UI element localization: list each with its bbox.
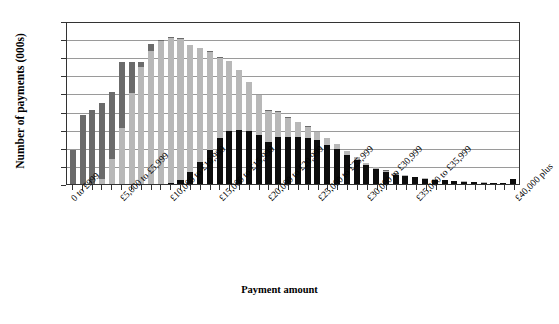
stacked-bar [158, 40, 164, 184]
bar-column [401, 23, 411, 184]
stacked-bar [129, 62, 135, 184]
bar-segment [295, 122, 301, 137]
bar-segment [109, 92, 115, 159]
stacked-bar [412, 177, 418, 184]
bar-segment [197, 162, 203, 184]
bar-column [489, 23, 499, 184]
x-tick-mark [411, 185, 421, 191]
bar-segment [490, 183, 496, 184]
x-tick-mark [431, 185, 441, 191]
bar-column [391, 23, 401, 184]
bar-segment [265, 111, 271, 142]
x-tick-mark [362, 185, 372, 191]
bar-segment [99, 179, 105, 184]
stacked-bar [177, 38, 183, 184]
bar-segment [177, 180, 183, 184]
bar-segment [295, 137, 301, 184]
bar-column [215, 23, 225, 184]
x-axis-ticks [66, 185, 520, 191]
bar-column [332, 23, 342, 184]
x-tick-mark [421, 185, 431, 191]
stacked-bar [461, 181, 467, 184]
bar-column [361, 23, 371, 184]
stacked-bar [373, 167, 379, 184]
bar-column [449, 23, 459, 184]
stacked-bar [226, 61, 232, 184]
x-tick-mark [391, 185, 401, 191]
bar-segment [275, 137, 281, 184]
bar-column [225, 23, 235, 184]
bar-column [381, 23, 391, 184]
bar-segment [80, 115, 86, 184]
stacked-bar [89, 110, 95, 184]
stacked-bar [402, 175, 408, 184]
bar-column [166, 23, 176, 184]
bar-column [371, 23, 381, 184]
bar-segment [187, 45, 193, 172]
bar-column [303, 23, 313, 184]
bar-segment [129, 62, 135, 93]
stacked-bar [510, 179, 516, 184]
bar-segment [305, 138, 311, 184]
bar-column [479, 23, 489, 184]
bar-column [156, 23, 166, 184]
stacked-bar [344, 151, 350, 184]
stacked-bar [236, 70, 242, 184]
bar-column [176, 23, 186, 184]
x-tick-mark [116, 185, 126, 191]
bar-segment [461, 182, 467, 184]
bar-segment [265, 142, 271, 184]
bar-segment [256, 135, 262, 184]
bar-column [97, 23, 107, 184]
x-tick-mark [313, 185, 323, 191]
bar-segment [402, 176, 408, 184]
x-tick-mark [352, 185, 362, 191]
x-tick-mark [264, 185, 274, 191]
bar-segment [89, 110, 95, 184]
bar-column [195, 23, 205, 184]
bar-segment [305, 127, 311, 138]
bar-segment [285, 137, 291, 184]
x-tick-mark [440, 185, 450, 191]
bar-segment [344, 155, 350, 184]
bar-column [107, 23, 117, 184]
bar-segment [354, 160, 360, 184]
stacked-bar [275, 111, 281, 184]
bar-segment [334, 149, 340, 184]
stacked-bar [99, 103, 105, 184]
stacked-bar [490, 183, 496, 184]
bar-column [313, 23, 323, 184]
bar-segment [217, 58, 223, 139]
x-tick-mark [126, 185, 136, 191]
x-tick-mark [273, 185, 283, 191]
x-tick-mark [77, 185, 87, 191]
bar-column [469, 23, 479, 184]
bar-column [459, 23, 469, 184]
bar-column [264, 23, 274, 184]
stacked-bar [354, 157, 360, 184]
bar-column [254, 23, 264, 184]
bar-segment [363, 165, 369, 184]
stacked-bar [285, 117, 291, 184]
stacked-bar [305, 126, 311, 184]
bar-segment [471, 182, 477, 184]
x-tick-mark [165, 185, 175, 191]
chart-figure: Number of payments (000s) 05101520253035… [0, 0, 559, 324]
stacked-bar [197, 48, 203, 184]
bar-column [117, 23, 127, 184]
x-tick-mark [401, 185, 411, 191]
x-tick-mark [450, 185, 460, 191]
stacked-bar [383, 170, 389, 184]
bar-segment [500, 183, 506, 184]
bar-column [352, 23, 362, 184]
stacked-bar [295, 122, 301, 184]
bar-segment [246, 131, 252, 184]
stacked-bar [481, 182, 487, 184]
bar-column [498, 23, 508, 184]
bar-segment [432, 180, 438, 184]
x-tick-mark [293, 185, 303, 191]
bar-segment [422, 179, 428, 184]
x-tick-mark [490, 185, 500, 191]
x-tick-mark [87, 185, 97, 191]
bar-column [234, 23, 244, 184]
